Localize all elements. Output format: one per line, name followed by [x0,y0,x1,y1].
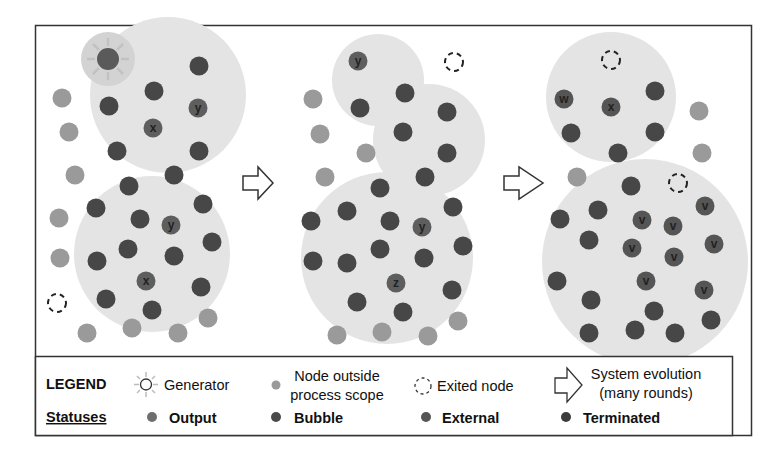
terminated-status-icon [561,412,571,422]
bubble-node [100,97,119,116]
bubble-node [416,168,435,187]
legend-evolution-label-line2: (many rounds) [599,385,692,401]
bubble-node [371,179,390,198]
bubble-node [580,231,599,250]
output-status-icon [147,412,157,422]
legend-outside-label-line2: process scope [290,387,384,403]
bubble-region [542,159,748,365]
bubble-region [301,172,473,344]
legend: LEGEND Generator Node outside process sc… [36,357,733,436]
bubble-node [444,198,463,217]
external-status-icon [421,412,431,422]
bubble-node [622,177,641,196]
outside-node [373,323,392,342]
outside-node [449,312,468,331]
outside-node [60,123,79,142]
legend-title: LEGEND [46,376,106,392]
outside-node [316,168,335,187]
bubble-node [394,123,413,142]
legend-evolution-label-line1: System evolution [591,366,701,382]
bubble-node [394,303,413,322]
bubble-node [165,166,184,185]
outside-node [50,209,69,228]
bubble-node [190,142,209,161]
bubble-node [589,201,608,220]
bubble-node [145,82,164,101]
node-label: z [393,276,399,290]
outside-node [357,144,376,163]
bubble-node [87,199,106,218]
outside-node [51,249,70,268]
bubble-node [438,144,457,163]
bubble-node [438,103,457,122]
outside-node [568,168,587,187]
node-label: v [670,219,677,233]
legend-output-label: Output [169,410,217,426]
bubble-node [351,99,370,118]
bubble-node [645,302,664,321]
bubble-node [194,195,213,214]
node-label: v [701,283,708,297]
bubble-node [165,247,184,266]
node-label: v [671,250,678,264]
bubble-node [702,311,721,330]
node-label: x [608,100,615,114]
bubble-node [454,237,473,256]
outside-node [169,324,188,343]
generator-icon [134,372,158,397]
legend-statuses-title: Statuses [46,409,106,425]
bubble-node [120,177,139,196]
generator-core [97,48,119,70]
outside-node [328,326,347,345]
outside-node [419,327,438,346]
node-label: v [643,274,650,288]
legend-exited-label: Exited node [437,378,514,394]
bubble-node [108,142,127,161]
bubble-node [562,124,581,143]
bubble-node [304,252,323,271]
bubble-status-icon [271,412,281,422]
bubble-node [609,144,628,163]
bubble-node [582,291,601,310]
legend-generator-label: Generator [164,377,229,393]
legend-terminated-label: Terminated [583,410,660,426]
bubble-node [666,324,685,343]
bubble-node [97,290,116,309]
node-label: y [419,220,426,234]
bubble-node [371,240,390,259]
bubble-node [646,123,665,142]
bubble-node [381,212,400,231]
bubble-evolution-diagram: y x y x [0,0,781,462]
node-label: v [702,199,709,213]
node-label: w [558,92,569,106]
generator-node [81,32,135,86]
bubble-node [338,202,357,221]
node-label: y [195,101,202,115]
outside-node [693,144,712,163]
legend-outside-label-line1: Node outside [294,368,379,384]
node-label: x [150,121,157,135]
bubble-node [551,210,570,229]
bubble-node [626,321,645,340]
outside-node-icon [272,381,281,390]
bubble-node [338,254,357,273]
node-label: v [629,241,636,255]
outside-node [690,102,709,121]
bubble-node [443,281,462,300]
bubble-node [190,57,209,76]
outside-node [78,324,97,343]
outside-node [304,90,323,109]
bubble-node [131,210,150,229]
legend-bubble-label: Bubble [294,410,343,426]
outside-node [66,166,85,185]
node-label: y [355,54,362,68]
bubble-node [88,252,107,271]
bubble-node [348,293,367,312]
node-label: v [711,237,718,251]
bubble-node [580,324,599,343]
bubble-node [203,233,222,252]
node-label: y [168,218,175,232]
outside-node [199,309,218,328]
bubble-node [548,272,567,291]
bubble-node [302,212,321,231]
